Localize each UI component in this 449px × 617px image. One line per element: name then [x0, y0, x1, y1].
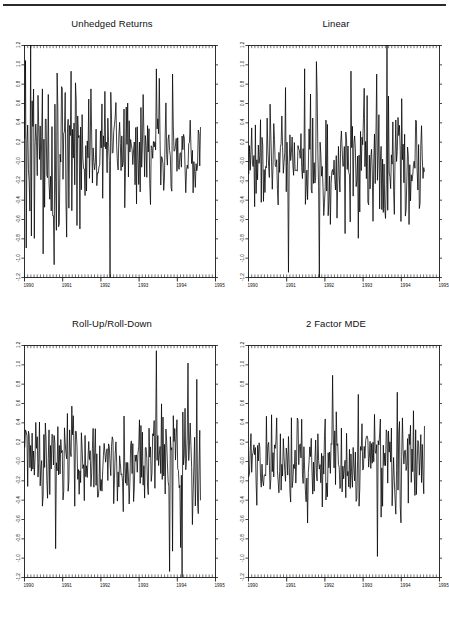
- panel-title: Linear: [224, 18, 448, 29]
- plot-area: 1.21.00.80.60.40.2-0.0-0.2-0.4-0.6-0.8-1…: [224, 39, 448, 309]
- y-tick-label: -0.6: [14, 210, 22, 228]
- y-tick-label: -0.2: [14, 171, 22, 189]
- header-rule: [3, 4, 446, 6]
- y-tick-label: 0.2: [238, 433, 246, 451]
- y-tick-label: -1.2: [14, 268, 22, 286]
- x-tick-label: 1990: [248, 583, 258, 588]
- y-tick-label: -0.0: [238, 152, 246, 170]
- y-tick-label: -0.4: [14, 191, 22, 209]
- y-tick-label: -0.8: [14, 229, 22, 247]
- y-tick-label: -1.0: [14, 249, 22, 267]
- x-tick-label: 1993: [362, 283, 372, 288]
- y-tick-label: 0.6: [14, 94, 22, 112]
- y-tick-label: 0.6: [14, 394, 22, 412]
- y-tick-label: -1.0: [14, 549, 22, 567]
- series-line: [25, 351, 201, 577]
- y-tick-label: -1.2: [14, 568, 22, 586]
- y-tick-label: -0.2: [14, 471, 22, 489]
- y-tick-label: 1.2: [238, 336, 246, 354]
- y-tick-label: -0.6: [238, 510, 246, 528]
- y-tick-label: -0.6: [238, 210, 246, 228]
- x-tick-label: 1994: [176, 283, 186, 288]
- series-line: [25, 45, 201, 277]
- x-tick-group: [25, 278, 216, 282]
- plot-svg: [224, 339, 448, 609]
- y-tick-label: 0.2: [14, 133, 22, 151]
- y-tick-label: 1.2: [238, 36, 246, 54]
- x-tick-label: 1994: [400, 283, 410, 288]
- x-tick-label: 1993: [138, 283, 148, 288]
- x-tick-label: 1995: [439, 583, 449, 588]
- plot-svg: [224, 39, 448, 309]
- y-tick-label: 0.8: [14, 75, 22, 93]
- y-tick-label: -0.2: [238, 471, 246, 489]
- y-tick-label: -1.0: [238, 249, 246, 267]
- x-tick-label: 1991: [62, 283, 72, 288]
- plot-area: 1.21.00.80.60.40.2-0.0-0.2-0.4-0.6-0.8-1…: [224, 339, 448, 609]
- chart-panel-unhedged-returns: Unhedged Returns 1.21.00.80.60.40.2-0.0-…: [0, 14, 224, 314]
- y-tick-label: 0.4: [238, 413, 246, 431]
- y-tick-label: -0.4: [238, 491, 246, 509]
- y-tick-label: 0.8: [238, 75, 246, 93]
- y-tick-label: 0.8: [14, 375, 22, 393]
- plot-frame: [25, 46, 216, 278]
- figure-page: Unhedged Returns 1.21.00.80.60.40.2-0.0-…: [0, 0, 449, 617]
- y-tick-label: 1.2: [14, 36, 22, 54]
- y-tick-label: -0.2: [238, 171, 246, 189]
- x-tick-group: [249, 578, 440, 582]
- x-tick-label: 1991: [286, 283, 296, 288]
- series-line: [249, 375, 425, 556]
- y-tick-label: 1.0: [14, 55, 22, 73]
- y-tick-label: 0.2: [238, 133, 246, 151]
- y-tick-label: -0.4: [238, 191, 246, 209]
- x-tick-label: 1992: [324, 583, 334, 588]
- plot-svg: [0, 39, 224, 309]
- x-tick-label: 1990: [24, 283, 34, 288]
- chart-panel-roll-up-roll-down: Roll-Up/Roll-Down 1.21.00.80.60.40.2-0.0…: [0, 314, 224, 614]
- y-tick-label: -0.8: [238, 229, 246, 247]
- y-tick-label: -1.0: [238, 549, 246, 567]
- y-tick-label: 0.2: [14, 433, 22, 451]
- y-tick-label: 0.4: [14, 113, 22, 131]
- y-tick-label: -0.0: [14, 452, 22, 470]
- y-tick-label: -0.8: [238, 529, 246, 547]
- y-tick-label: 1.0: [238, 55, 246, 73]
- series-line: [249, 45, 425, 277]
- y-tick-label: 0.4: [238, 113, 246, 131]
- panel-title: 2 Factor MDE: [224, 318, 448, 329]
- y-tick-label: -0.4: [14, 491, 22, 509]
- chart-panel-linear: Linear 1.21.00.80.60.40.2-0.0-0.2-0.4-0.…: [224, 14, 448, 314]
- x-tick-label: 1994: [176, 583, 186, 588]
- x-tick-label: 1991: [62, 583, 72, 588]
- y-tick-label: -0.0: [14, 152, 22, 170]
- chart-panel-2-factor-mde: 2 Factor MDE 1.21.00.80.60.40.2-0.0-0.2-…: [224, 314, 448, 614]
- plot-area: 1.21.00.80.60.40.2-0.0-0.2-0.4-0.6-0.8-1…: [0, 39, 224, 309]
- y-tick-label: -0.0: [238, 452, 246, 470]
- x-tick-label: 1994: [400, 583, 410, 588]
- y-tick-label: -1.2: [238, 268, 246, 286]
- plot-area: 1.21.00.80.60.40.2-0.0-0.2-0.4-0.6-0.8-1…: [0, 339, 224, 609]
- plot-svg: [0, 339, 224, 609]
- x-tick-label: 1990: [248, 283, 258, 288]
- x-tick-label: 1992: [100, 283, 110, 288]
- panel-title: Roll-Up/Roll-Down: [0, 318, 224, 329]
- y-tick-label: 1.2: [14, 336, 22, 354]
- y-tick-label: -1.2: [238, 568, 246, 586]
- x-tick-group: [25, 578, 216, 582]
- x-tick-label: 1991: [286, 583, 296, 588]
- x-tick-label: 1993: [138, 583, 148, 588]
- x-tick-label: 1992: [100, 583, 110, 588]
- x-tick-group: [249, 278, 440, 282]
- x-tick-label: 1995: [439, 283, 449, 288]
- minor-tick-group: [25, 46, 216, 278]
- y-tick-label: -0.6: [14, 510, 22, 528]
- y-tick-label: 1.0: [14, 355, 22, 373]
- y-tick-label: 0.6: [238, 394, 246, 412]
- y-tick-label: 0.4: [14, 413, 22, 431]
- panel-title: Unhedged Returns: [0, 18, 224, 29]
- x-tick-label: 1990: [24, 583, 34, 588]
- panel-grid: Unhedged Returns 1.21.00.80.60.40.2-0.0-…: [0, 14, 449, 614]
- y-tick-label: 0.8: [238, 375, 246, 393]
- x-tick-label: 1992: [324, 283, 334, 288]
- y-tick-label: 0.6: [238, 94, 246, 112]
